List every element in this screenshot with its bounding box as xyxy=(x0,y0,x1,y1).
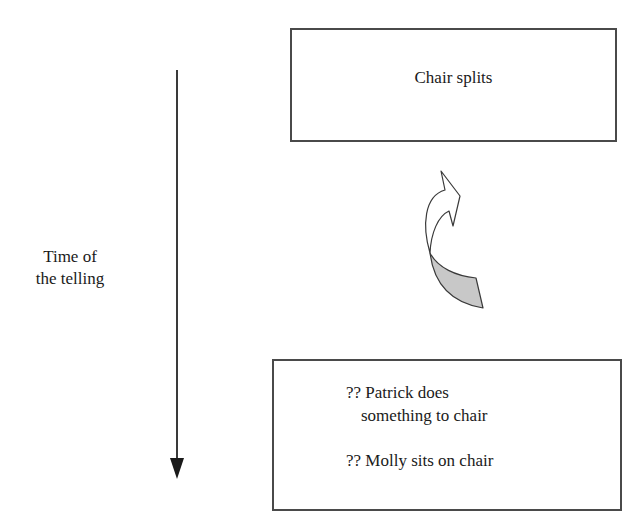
diagram-canvas: Time of the telling Chair splits ?? Patr… xyxy=(0,0,638,529)
candidate-event-patrick: ?? Patrick does xyxy=(346,383,449,403)
candidate-event-patrick-continued: something to chair xyxy=(361,406,488,426)
event-box-candidate-causes: ?? Patrick does something to chair ?? Mo… xyxy=(272,359,622,511)
candidate-event-molly: ?? Molly sits on chair xyxy=(346,451,493,471)
